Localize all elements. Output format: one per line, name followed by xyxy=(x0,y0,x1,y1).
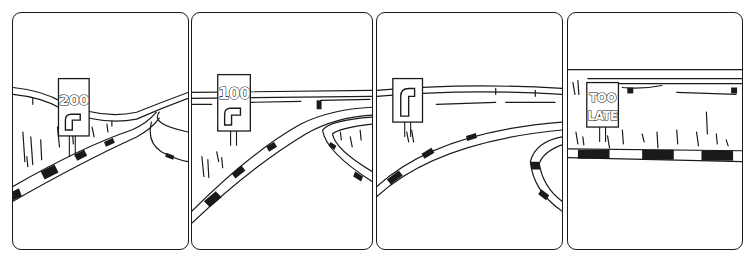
comic-panel-3 xyxy=(376,12,563,250)
distance-sign-200: 200 xyxy=(58,79,89,136)
svg-text:100: 100 xyxy=(218,84,250,103)
too-late-sign: TOO LATE xyxy=(587,83,619,127)
svg-text:LATE: LATE xyxy=(588,109,618,123)
svg-text:TOO: TOO xyxy=(589,91,616,105)
panel-3-drawing xyxy=(377,13,562,249)
svg-text:200: 200 xyxy=(59,91,89,108)
turn-warning-sign xyxy=(393,79,423,123)
panel-4-drawing: TOO LATE xyxy=(568,13,742,249)
distance-sign-100: 100 xyxy=(218,75,251,131)
panel-2-drawing: 100 xyxy=(192,13,372,249)
comic-panel-4: TOO LATE xyxy=(567,12,743,250)
comic-panel-2: 100 xyxy=(191,12,373,250)
comic-strip: 200 xyxy=(0,0,744,262)
comic-panel-1: 200 xyxy=(12,12,189,250)
sign-post xyxy=(231,130,237,146)
panel-1-drawing: 200 xyxy=(13,13,188,249)
